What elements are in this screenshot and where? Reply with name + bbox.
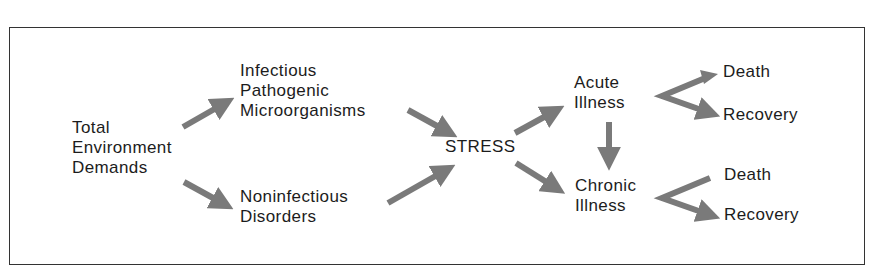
node-line: Illness	[575, 196, 636, 216]
node-line: Death	[723, 62, 770, 82]
node-infectious-pathogenic-microorganisms: Infectious Pathogenic Microorganisms	[240, 61, 366, 121]
node-noninfectious-disorders: Noninfectious Disorders	[240, 187, 348, 227]
node-line: Acute	[574, 73, 625, 93]
node-line: STRESS	[445, 137, 515, 157]
arrow-stress-to-chronic	[516, 163, 556, 188]
node-line: Total	[72, 118, 172, 138]
node-line: Disorders	[240, 207, 348, 227]
node-line: Noninfectious	[240, 187, 348, 207]
node-chronic-death: Death	[724, 165, 771, 185]
arrow-infectious-to-stress	[408, 110, 448, 132]
node-line: Microorganisms	[240, 101, 366, 121]
node-chronic-illness: Chronic Illness	[575, 176, 636, 216]
node-total-environment-demands: Total Environment Demands	[72, 118, 172, 178]
node-line: Infectious	[240, 61, 366, 81]
arrow-stress-to-acute	[515, 111, 555, 133]
node-line: Demands	[72, 158, 172, 178]
node-line: Chronic	[575, 176, 636, 196]
arrow-acute-to-outcomes	[662, 76, 710, 113]
arrow-total-to-infectious	[183, 103, 225, 127]
node-line: Illness	[574, 93, 625, 113]
arrow-total-to-noninfectious	[184, 182, 224, 204]
node-line: Recovery	[723, 105, 798, 125]
node-chronic-recovery: Recovery	[724, 205, 799, 225]
node-acute-illness: Acute Illness	[574, 73, 625, 113]
node-line: Recovery	[724, 205, 799, 225]
node-acute-recovery: Recovery	[723, 105, 798, 125]
arrow-chronic-to-outcomes	[662, 178, 710, 215]
arrow-noninfectious-to-stress	[388, 170, 446, 203]
node-acute-death: Death	[723, 62, 770, 82]
node-line: Death	[724, 165, 771, 185]
node-stress: STRESS	[445, 137, 515, 157]
node-line: Environment	[72, 138, 172, 158]
node-line: Pathogenic	[240, 81, 366, 101]
